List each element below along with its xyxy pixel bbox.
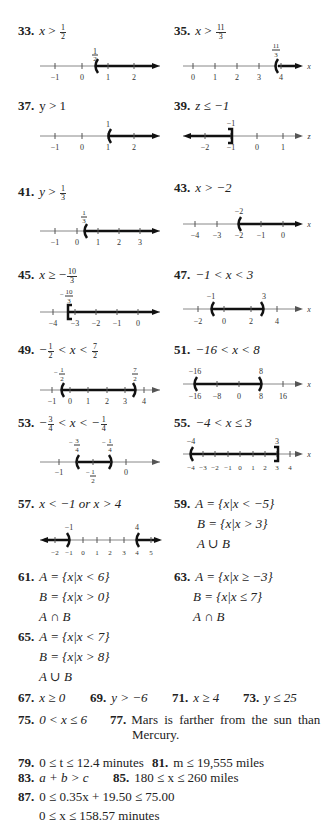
svg-text:4: 4 — [135, 523, 139, 532]
problem-37: 37.y > 1 — [18, 98, 66, 113]
problem-33: 33.x > 12 — [18, 23, 67, 41]
svg-text:2: 2 — [91, 477, 95, 485]
problem-number: 43. — [174, 180, 190, 195]
svg-text:1: 1 — [95, 549, 99, 557]
set-b: B = {x|x > 3} — [197, 516, 268, 532]
fraction: 34 — [48, 416, 54, 433]
svg-text:−2: −2 — [92, 319, 101, 328]
svg-text:4: 4 — [288, 464, 292, 472]
svg-text:−3: −3 — [71, 319, 80, 328]
svg-text:−2: −2 — [51, 549, 59, 557]
svg-text:1: 1 — [251, 464, 255, 472]
problem-number: 79. — [18, 755, 34, 770]
set-operation: A ∩ B — [39, 609, 71, 625]
problem-number: 55. — [174, 415, 190, 430]
svg-text:−: − — [60, 291, 64, 299]
problem-67: 67.x ≥ 0 — [18, 690, 65, 705]
set-operation: A ∪ B — [197, 536, 230, 552]
answer-text-continued: Mercury. — [132, 727, 320, 742]
svg-text:0: 0 — [81, 549, 85, 557]
svg-text:3: 3 — [75, 437, 79, 445]
problem-83-row: 83.a + b > c — [18, 770, 89, 785]
inequality: x ≥ 0 — [39, 690, 65, 705]
problem-73: 73.y ≤ 25 — [243, 690, 297, 705]
svg-text:−1: −1 — [55, 468, 64, 477]
svg-text:2: 2 — [133, 375, 137, 383]
svg-text:1: 1 — [82, 209, 86, 217]
problem-57: 57.x < −1 or x > 4 — [18, 496, 121, 511]
svg-text:z: z — [306, 132, 311, 141]
svg-text:0: 0 — [237, 392, 241, 401]
number-line-53: −10 −12 −34 −14 — [40, 448, 165, 492]
svg-text:x: x — [306, 220, 311, 229]
svg-text:x: x — [306, 450, 311, 459]
svg-text:2: 2 — [132, 73, 136, 82]
svg-text:1: 1 — [108, 437, 112, 445]
problem-number: 53. — [18, 415, 34, 430]
svg-text:3: 3 — [262, 292, 266, 301]
svg-text:10: 10 — [66, 288, 74, 296]
svg-text:−: − — [86, 469, 90, 477]
set-operation: A ∪ B — [39, 669, 72, 685]
fraction: 72 — [92, 343, 98, 360]
svg-text:2: 2 — [249, 317, 253, 326]
svg-text:5: 5 — [149, 549, 153, 557]
svg-text:2: 2 — [105, 397, 109, 406]
svg-text:−: − — [54, 369, 58, 377]
svg-text:1: 1 — [213, 73, 217, 82]
inequality: y > 1 — [39, 98, 66, 113]
problem-51: 51.−16 < x < 8 — [174, 342, 260, 357]
svg-text:1: 1 — [281, 143, 285, 152]
svg-text:−: − — [102, 439, 106, 447]
problem-number: 63. — [174, 569, 190, 584]
set-b: B = {x|x > 0} — [39, 589, 110, 605]
svg-text:−1: −1 — [224, 464, 232, 472]
problem-number: 65. — [18, 629, 34, 644]
svg-text:0: 0 — [124, 468, 128, 477]
set-a: A = {x|x < 7} — [39, 629, 109, 644]
svg-text:8: 8 — [259, 392, 263, 401]
number-line-41: −1012313 — [40, 213, 165, 249]
svg-text:2: 2 — [108, 549, 112, 557]
problem-number: 35. — [174, 23, 190, 38]
svg-text:−3: −3 — [199, 464, 207, 472]
svg-text:0: 0 — [238, 464, 242, 472]
problem-number: 69. — [90, 690, 106, 705]
inequality: y > −6 — [111, 690, 147, 705]
svg-text:−2: −2 — [201, 143, 210, 152]
svg-text:1: 1 — [96, 238, 100, 247]
svg-text:3: 3 — [82, 217, 86, 225]
svg-text:−3: −3 — [213, 231, 222, 240]
problem-number: 59. — [174, 496, 190, 511]
svg-text:0: 0 — [68, 397, 72, 406]
problem-number: 71. — [172, 690, 188, 705]
fraction: 14 — [101, 416, 107, 433]
svg-text:2: 2 — [117, 238, 121, 247]
problem-number: 49. — [18, 342, 34, 357]
svg-text:1: 1 — [91, 468, 95, 476]
svg-text:−1: −1 — [65, 549, 73, 557]
svg-text:−2: −2 — [235, 231, 244, 240]
number-line-49: −101234 −12 72 — [40, 372, 165, 408]
svg-text:−1: −1 — [51, 143, 60, 152]
number-line-55: −4−3−2−101234−43x — [183, 444, 323, 480]
svg-text:4: 4 — [108, 446, 112, 454]
problem-43: 43.x > −2 — [174, 180, 232, 195]
inequality: z ≤ −1 — [195, 98, 229, 113]
set-a: A = {x|x ≥ −3} — [195, 569, 272, 584]
svg-text:3: 3 — [274, 51, 278, 59]
problem-53: 53.−34 < x < −14 — [18, 415, 108, 433]
number-line-35: 01234113x — [183, 48, 323, 84]
svg-text:1: 1 — [106, 73, 110, 82]
answer-text-continued: 0 ≤ x ≤ 158.57 minutes — [39, 808, 175, 822]
svg-text:x: x — [306, 62, 311, 71]
svg-text:−: − — [69, 439, 73, 447]
answer-text: 180 ≤ x ≤ 260 miles — [134, 770, 238, 785]
svg-text:−1: −1 — [113, 319, 122, 328]
variable: y — [39, 184, 45, 199]
number-line-37: −10121 — [40, 118, 165, 154]
svg-text:0: 0 — [255, 143, 259, 152]
fraction: 103 — [67, 268, 77, 285]
svg-text:3: 3 — [122, 549, 126, 557]
problem-number: 39. — [174, 98, 190, 113]
